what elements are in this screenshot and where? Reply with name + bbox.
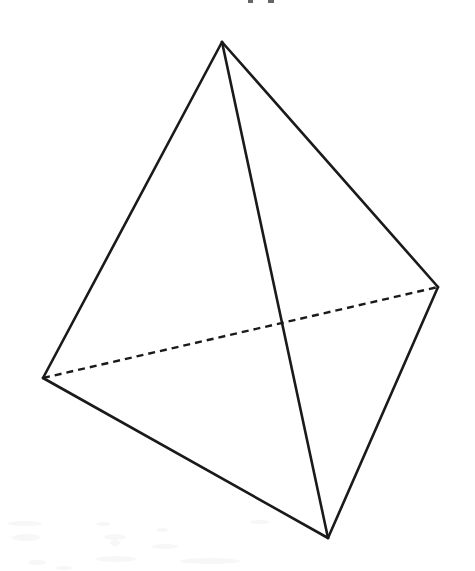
hidden-edge-group	[43, 287, 438, 378]
tetrahedron-figure	[0, 0, 475, 571]
figure-canvas	[0, 0, 475, 571]
visible-edge-group	[43, 42, 438, 538]
edge-apex-left	[43, 42, 222, 378]
edge-left-right-hidden	[43, 287, 438, 378]
edge-bottom-right	[328, 287, 438, 538]
edge-left-bottom	[43, 378, 328, 538]
edge-apex-right	[222, 42, 438, 287]
edge-apex-bottom	[222, 42, 328, 538]
